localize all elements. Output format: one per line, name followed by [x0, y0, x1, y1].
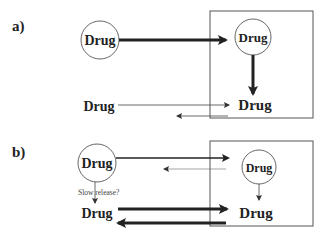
drug-transport-diagram: a) Drug Drug Drug Drug b) Drug Drug Drug…	[0, 0, 330, 235]
panel-b: b) Drug Drug Drug Slow release? Drug	[12, 141, 313, 226]
panel-a-drug-inner-carrier: Drug	[239, 30, 268, 45]
panel-b-drug-inner-carrier: Drug	[246, 161, 273, 175]
panel-b-slow-release-annotation: Slow release?	[78, 188, 120, 197]
panel-b-drug-outer-carrier: Drug	[81, 156, 112, 171]
panel-b-drug-outside-free: Drug	[81, 206, 112, 221]
panel-a-drug-outer-carrier: Drug	[84, 33, 115, 48]
panel-b-drug-inside-free: Drug	[239, 205, 273, 221]
panel-a-label: a)	[12, 18, 25, 35]
panel-a-drug-outside-free: Drug	[83, 99, 114, 114]
panel-a-drug-inside-free: Drug	[238, 97, 272, 113]
panel-b-label: b)	[12, 144, 25, 161]
panel-a: a) Drug Drug Drug Drug	[12, 11, 313, 118]
